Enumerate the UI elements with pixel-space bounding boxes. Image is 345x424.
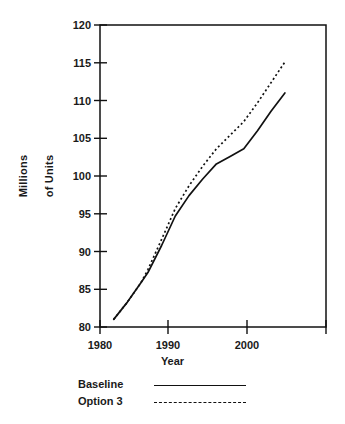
x-tick-label-1980: 1980 [78,340,122,351]
legend-label-baseline: Baseline [78,378,123,391]
legend-swatch-solid-line [154,385,246,386]
legend-swatch-dotted-line [154,402,246,403]
y-tick-label-120: 120 [61,20,91,31]
legend-item-baseline: Baseline [78,378,278,395]
y-axis-title-line-2: of Units [43,155,55,198]
y-tick-label-85: 85 [61,284,91,295]
series-line-baseline [114,93,285,320]
chart-figure: 120 115 110 105 100 95 90 85 80 1980 199… [0,0,345,424]
y-tick-label-95: 95 [61,209,91,220]
x-tick-label-1990: 1990 [146,340,190,351]
plot-frame [100,25,326,327]
y-tick-label-115: 115 [61,58,91,69]
y-axis-title-line-1: Millions [17,155,29,198]
x-axis-title: Year [0,355,345,367]
series-line-option-3 [114,62,285,319]
y-tick-label-100: 100 [61,171,91,182]
y-tick-label-80: 80 [61,322,91,333]
y-tick-label-90: 90 [61,247,91,258]
chart-legend: Baseline Option 3 [78,378,278,412]
y-tick-label-110: 110 [61,96,91,107]
legend-item-option-3: Option 3 [78,395,278,412]
legend-label-option-3: Option 3 [78,395,123,408]
x-tick-label-2000: 2000 [225,340,269,351]
y-tick-label-105: 105 [61,133,91,144]
y-axis-title: Millions of Units [4,116,56,236]
